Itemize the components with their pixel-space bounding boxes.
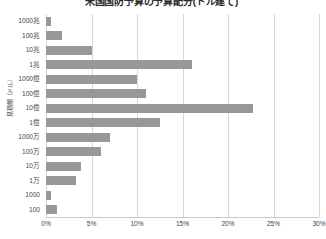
bar-series: [46, 14, 319, 217]
bar: [46, 133, 110, 142]
y-axis-tick-label: 10億: [26, 101, 40, 116]
y-axis-tick-label: 1000: [25, 188, 40, 203]
bar-row: [46, 101, 253, 116]
bar: [46, 118, 160, 127]
x-axis-tick-label: 10%: [130, 220, 143, 227]
bar-row: [46, 29, 62, 44]
y-axis-tick-label: 1000兆: [18, 14, 40, 29]
bar: [46, 31, 62, 40]
y-axis-tick-label: 100万: [22, 145, 40, 160]
bar-row: [46, 14, 51, 29]
chart-title: 米国国防予算の予算配分(ドル建て): [0, 0, 323, 8]
bar-row: [46, 145, 101, 160]
y-axis-tick-label: 10兆: [26, 43, 40, 58]
y-axis-tick-label: 100億: [22, 87, 40, 102]
y-axis-tick-label: 100: [29, 203, 40, 218]
y-axis-tick-label: 1000億: [18, 72, 40, 87]
bar: [46, 60, 192, 69]
bar: [46, 89, 146, 98]
bar: [46, 176, 76, 185]
y-axis-tick-label: 1億: [29, 116, 40, 131]
x-axis-tick-label: 25%: [267, 220, 280, 227]
bar: [46, 205, 57, 214]
y-axis-tick-label: 1万: [29, 174, 40, 189]
bar-row: [46, 72, 137, 87]
x-axis-tick-label: 15%: [176, 220, 189, 227]
bar-row: [46, 116, 160, 131]
y-axis-tick-labels: 1000兆100兆10兆1兆1000億100億10億1億1000万100万10万…: [0, 14, 43, 217]
x-axis-tick-label: 5%: [87, 220, 97, 227]
gridline: [319, 14, 320, 217]
x-axis-tick-label: 20%: [221, 220, 234, 227]
y-axis-tick-label: 10万: [26, 159, 40, 174]
bar: [46, 17, 51, 26]
plot-area: [46, 14, 319, 217]
bar: [46, 191, 51, 200]
bar: [46, 147, 101, 156]
bar-row: [46, 174, 76, 189]
bar: [46, 46, 92, 55]
x-axis-tick-label: 0%: [41, 220, 51, 227]
x-axis-tick-label: 30%: [312, 220, 325, 227]
y-axis-tick-label: 1兆: [29, 58, 40, 73]
y-axis-tick-label: 100兆: [22, 29, 40, 44]
y-axis-tick-label: 1000万: [18, 130, 40, 145]
bar: [46, 162, 81, 171]
bar-row: [46, 203, 57, 218]
bar-row: [46, 159, 81, 174]
bar-row: [46, 58, 192, 73]
bar: [46, 104, 253, 113]
bar: [46, 75, 137, 84]
x-axis-line: [46, 217, 319, 218]
bar-row: [46, 43, 92, 58]
bar-row: [46, 130, 110, 145]
x-axis-tick-labels: 0%5%10%15%20%25%30%: [0, 220, 323, 234]
bar-row: [46, 188, 51, 203]
bar-row: [46, 87, 146, 102]
